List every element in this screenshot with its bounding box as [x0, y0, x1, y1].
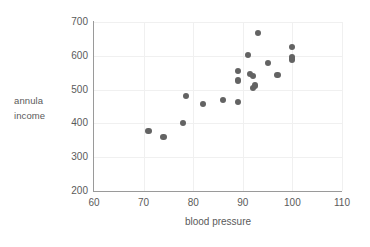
gridline-horizontal — [94, 56, 342, 57]
data-point — [289, 56, 295, 62]
data-point — [235, 99, 241, 105]
data-point — [183, 93, 189, 99]
data-point — [265, 60, 271, 66]
x-axis-tick-label: 90 — [223, 198, 263, 208]
y-axis-tick-label: 400 — [54, 118, 88, 128]
data-point — [245, 52, 251, 58]
x-axis-tick-label: 80 — [173, 198, 213, 208]
y-axis-tick-label: 600 — [54, 51, 88, 61]
data-point — [235, 68, 241, 74]
data-point — [180, 120, 186, 126]
data-point — [252, 82, 258, 88]
data-point — [255, 30, 261, 36]
x-axis-tick-label: 70 — [124, 198, 164, 208]
x-axis-tick-label: 110 — [322, 198, 362, 208]
x-axis-tick-label: 60 — [74, 198, 114, 208]
data-point — [274, 72, 280, 78]
y-axis-tick-label: 200 — [54, 186, 88, 196]
x-axis-tick-label: 100 — [272, 198, 312, 208]
gridline-horizontal — [94, 123, 342, 124]
y-axis-tick-label: 700 — [54, 17, 88, 27]
x-axis-line — [93, 191, 342, 192]
gridline-vertical — [144, 22, 145, 191]
y-axis-tick-label: 500 — [54, 85, 88, 95]
gridline-vertical — [342, 22, 343, 191]
gridline-horizontal — [94, 22, 342, 23]
gridline-vertical — [243, 22, 244, 191]
data-point — [250, 73, 256, 79]
data-point — [145, 128, 151, 134]
y-axis-tick-label: 300 — [54, 152, 88, 162]
plot-area — [94, 22, 342, 191]
data-point — [235, 77, 241, 83]
x-axis-title: blood pressure — [94, 216, 342, 227]
scatter-chart: annula income 200300400500600700 6070809… — [0, 0, 370, 247]
data-point — [289, 44, 295, 50]
gridline-vertical — [193, 22, 194, 191]
data-point — [220, 97, 226, 103]
data-point — [200, 101, 206, 107]
gridline-horizontal — [94, 157, 342, 158]
x-axis-tick-labels: 60708090100110 — [0, 198, 370, 212]
gridline-horizontal — [94, 90, 342, 91]
data-point — [160, 134, 166, 140]
y-axis-line — [93, 21, 94, 192]
